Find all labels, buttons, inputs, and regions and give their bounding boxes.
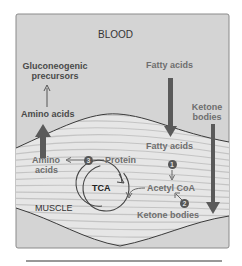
tca-label: TCA [92,183,111,193]
gluconeogenic-line1: Gluconeogenic [20,61,90,71]
amino-line1: Amino [32,155,60,165]
ketone-line2: bodies [187,112,227,122]
amino-acids-muscle-label: Amino acids [32,155,60,175]
gluconeogenic-precursors-label: Gluconeogenic precursors [20,61,90,81]
ketone-bodies-blood-label: Ketone bodies [187,102,227,122]
gluconeogenic-line2: precursors [20,71,90,81]
step-2-badge: 2 [180,199,189,208]
acetyl-coa-label: Acetyl CoA [147,183,195,193]
ketone-line1: Ketone [187,102,227,112]
step-3-badge: 3 [84,156,93,165]
fatty-acids-muscle-label: Fatty acids [146,141,193,151]
amino-acids-blood-label: Amino acids [21,109,75,119]
protein-label: Protein [105,155,136,165]
step-1-badge: 1 [168,160,177,169]
amino-line2: acids [32,165,60,175]
muscle-label: MUSCLE [35,203,73,213]
ketone-bodies-muscle-label: Ketone bodies [137,210,199,220]
fatty-acids-blood-label: Fatty acids [146,60,193,70]
blood-label: BLOOD [98,30,133,40]
